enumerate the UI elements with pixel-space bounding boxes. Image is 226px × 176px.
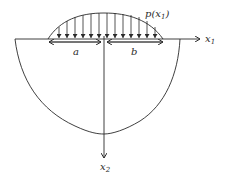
dimension-b-label: b: [131, 46, 137, 57]
x1-axis-label: x1: [205, 33, 215, 46]
body-outline: [15, 39, 180, 134]
dimension-a-label: a: [73, 46, 79, 57]
load-label: p(x1): [145, 8, 169, 21]
diagram-canvas: p(x1) x1 x2 a b: [0, 0, 226, 176]
x2-axis-label: x2: [100, 161, 111, 174]
load-arrows: [59, 13, 155, 38]
